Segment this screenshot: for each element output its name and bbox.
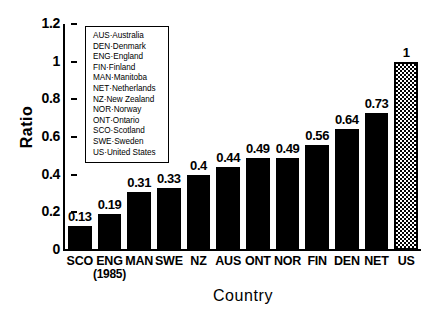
bar-group: 1 bbox=[394, 24, 418, 250]
legend-entry: AUS·Australia bbox=[93, 31, 163, 42]
bar[interactable] bbox=[305, 145, 329, 250]
legend-entry: DEN·Denmark bbox=[93, 42, 163, 53]
y-tick-label: 0.8 bbox=[18, 91, 60, 105]
bar-value-label: 0.13 bbox=[58, 210, 102, 223]
bar-value-label: 0.33 bbox=[147, 172, 191, 185]
x-axis-ticks: SCOENG(1985)MANSWENZAUSONTNORFINDENNETUS bbox=[65, 254, 421, 290]
legend-entry: ONT·Ontario bbox=[93, 116, 163, 127]
bar-value-label: 1 bbox=[384, 46, 428, 59]
bar-value-label: 0.64 bbox=[325, 113, 369, 126]
bar[interactable] bbox=[335, 129, 359, 250]
bar-value-label: 0.49 bbox=[266, 142, 310, 155]
legend-entry: SWE·Sweden bbox=[93, 137, 163, 148]
x-tick-label: US bbox=[388, 254, 424, 268]
y-tick-label: 0.6 bbox=[18, 129, 60, 143]
bar[interactable] bbox=[68, 226, 92, 250]
bar[interactable] bbox=[98, 214, 122, 250]
x-tick-label-text: MAN bbox=[125, 254, 153, 268]
y-tick-label: 0.4 bbox=[18, 167, 60, 181]
x-tick-label-text: FIN bbox=[307, 254, 327, 268]
bar[interactable] bbox=[276, 158, 300, 250]
x-tick-label-text: AUS bbox=[215, 254, 241, 268]
bar-group: 0.64 bbox=[335, 24, 359, 250]
legend-entry: SCO·Scotland bbox=[93, 126, 163, 137]
legend-entry: US·United States bbox=[93, 148, 163, 159]
x-tick-label-text: NET bbox=[364, 254, 388, 268]
bar-group: 0.49 bbox=[246, 24, 270, 250]
bar-value-label: 0.73 bbox=[355, 97, 399, 110]
x-tick-label-text: NOR bbox=[274, 254, 301, 268]
bar-group: 0.44 bbox=[216, 24, 240, 250]
y-tick-label: 0 bbox=[18, 242, 60, 256]
legend-entry: ENG·England bbox=[93, 52, 163, 63]
bar[interactable] bbox=[365, 113, 389, 250]
legend-entry: FIN·Finland bbox=[93, 63, 163, 74]
x-tick-label-text: ONT bbox=[245, 254, 271, 268]
legend-entry: NET·Netherlands bbox=[93, 84, 163, 95]
x-tick-label-text: US bbox=[398, 254, 415, 268]
legend-entry: MAN·Manitoba bbox=[93, 73, 163, 84]
y-tick-label: 0.2 bbox=[18, 204, 60, 218]
y-axis-ticks: 00.20.40.60.811.2 bbox=[8, 0, 60, 312]
x-tick-label-text: NZ bbox=[190, 254, 206, 268]
bar-chart-figure: Ratio 00.20.40.60.811.2 0.130.190.310.33… bbox=[0, 0, 430, 312]
legend-box: AUS·AustraliaDEN·DenmarkENG·EnglandFIN·F… bbox=[85, 26, 169, 163]
legend-entry: NZ·New Zealand bbox=[93, 95, 163, 106]
bar[interactable] bbox=[216, 167, 240, 250]
y-tick-label: 1.2 bbox=[18, 16, 60, 30]
bar[interactable] bbox=[394, 62, 418, 250]
x-tick-label-text: ENG bbox=[96, 254, 123, 268]
bar[interactable] bbox=[187, 175, 211, 250]
bar[interactable] bbox=[246, 158, 270, 250]
x-tick-label-text: SWE bbox=[155, 254, 183, 268]
bar-value-label: 0.19 bbox=[88, 198, 132, 211]
bar-value-label: 0.56 bbox=[295, 129, 339, 142]
x-tick-label-text: DEN bbox=[334, 254, 360, 268]
x-tick-sublabel: (1985) bbox=[92, 268, 128, 282]
x-axis-title: Country bbox=[65, 287, 421, 305]
legend-entry: NOR·Norway bbox=[93, 105, 163, 116]
bar[interactable] bbox=[157, 188, 181, 250]
bar-group: 0.56 bbox=[305, 24, 329, 250]
bar-group: 0.4 bbox=[187, 24, 211, 250]
y-tick-label: 1 bbox=[18, 54, 60, 68]
x-tick-label-text: SCO bbox=[67, 254, 94, 268]
bar[interactable] bbox=[127, 192, 151, 250]
